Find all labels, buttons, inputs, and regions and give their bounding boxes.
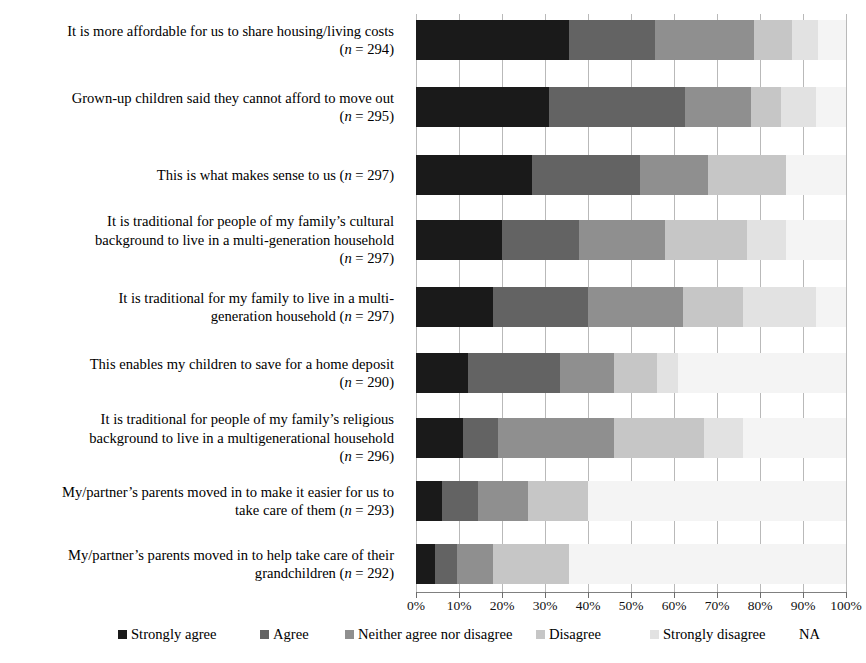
bar-segment-2 <box>463 418 497 458</box>
legend-item[interactable]: Strongly disagree <box>650 626 766 643</box>
bar-segment-2 <box>569 20 655 60</box>
row-label: This enables my children to save for a h… <box>0 355 404 392</box>
bar-segment-4 <box>665 220 747 260</box>
legend-label: Disagree <box>549 626 601 643</box>
x-tick-label: 100% <box>823 598 866 614</box>
row-label: My/partner’s parents moved in to help ta… <box>0 546 404 583</box>
bar-segment-1 <box>416 20 569 60</box>
bar-segment-1 <box>416 87 549 127</box>
bar-segment-1 <box>416 544 435 584</box>
x-tick-label: 30% <box>522 598 568 614</box>
bar-segment-2 <box>493 287 588 327</box>
stacked-bar <box>416 418 846 458</box>
bar-segment-4 <box>493 544 568 584</box>
bar-segment-5 <box>743 287 816 327</box>
stacked-bar <box>416 287 846 327</box>
bar-segment-2 <box>468 353 560 393</box>
bar-segment-5 <box>747 220 786 260</box>
bar-segment-3 <box>588 287 683 327</box>
legend-label: Strongly disagree <box>663 626 766 643</box>
bar-segment-6 <box>816 287 846 327</box>
legend-item[interactable]: Disagree <box>536 626 601 643</box>
bar-segment-3 <box>685 87 752 127</box>
stacked-bar <box>416 20 846 60</box>
stacked-bar <box>416 155 846 195</box>
legend-swatch-icon <box>786 630 795 639</box>
bar-segment-6 <box>588 481 846 521</box>
legend-item[interactable]: NA <box>786 626 820 643</box>
bar-segment-6 <box>786 155 846 195</box>
legend-item[interactable]: Strongly agree <box>118 626 217 643</box>
bar-segment-3 <box>478 481 527 521</box>
row-label: It is traditional for people of my famil… <box>0 212 404 268</box>
bar-segment-4 <box>614 418 704 458</box>
bar-segment-2 <box>435 544 457 584</box>
bar-segment-1 <box>416 418 463 458</box>
bar-segment-2 <box>532 155 640 195</box>
x-tick-label: 80% <box>737 598 783 614</box>
row-label: It is traditional for people of my famil… <box>0 410 404 466</box>
x-tick-label: 10% <box>436 598 482 614</box>
legend-swatch-icon <box>536 630 545 639</box>
bar-segment-6 <box>818 20 846 60</box>
legend-swatch-icon <box>650 630 659 639</box>
stacked-bar <box>416 87 846 127</box>
bar-segment-1 <box>416 353 468 393</box>
stacked-bar <box>416 481 846 521</box>
bar-segment-2 <box>502 220 579 260</box>
bar-segment-4 <box>528 481 588 521</box>
x-tick-label: 40% <box>565 598 611 614</box>
bar-segment-3 <box>498 418 614 458</box>
legend-item[interactable]: Neither agree nor disagree <box>345 626 512 643</box>
bar-segment-3 <box>457 544 494 584</box>
bar-segment-6 <box>678 353 846 393</box>
bar-segment-4 <box>754 20 793 60</box>
legend-swatch-icon <box>260 630 269 639</box>
row-label: It is more affordable for us to share ho… <box>0 22 404 59</box>
stacked-bar <box>416 353 846 393</box>
row-label: This is what makes sense to us (n = 297) <box>0 166 404 185</box>
x-tick-label: 20% <box>479 598 525 614</box>
bar-segment-1 <box>416 481 442 521</box>
x-tick-label: 60% <box>651 598 697 614</box>
bar-segment-4 <box>683 287 743 327</box>
stacked-bar <box>416 220 846 260</box>
bar-segment-2 <box>549 87 684 127</box>
bar-segment-3 <box>560 353 614 393</box>
legend-label: Agree <box>273 626 309 643</box>
x-tick-label: 0% <box>393 598 439 614</box>
bar-segment-2 <box>442 481 479 521</box>
bar-segment-1 <box>416 220 502 260</box>
legend-swatch-icon <box>345 630 354 639</box>
x-tick-label: 70% <box>694 598 740 614</box>
x-tick-label: 50% <box>608 598 654 614</box>
bar-segment-4 <box>751 87 781 127</box>
bar-segment-5 <box>792 20 818 60</box>
row-label: My/partner’s parents moved in to make it… <box>0 483 404 520</box>
row-label: It is traditional for my family to live … <box>0 289 404 326</box>
bar-segment-6 <box>569 544 846 584</box>
bar-segment-3 <box>579 220 665 260</box>
bar-segment-4 <box>708 155 785 195</box>
row-label: Grown-up children said they cannot affor… <box>0 89 404 126</box>
bar-segment-4 <box>614 353 657 393</box>
legend-label: Strongly agree <box>131 626 217 643</box>
bar-segment-1 <box>416 287 493 327</box>
stacked-bar <box>416 544 846 584</box>
bar-segment-3 <box>640 155 709 195</box>
bar-segment-5 <box>781 87 815 127</box>
bar-segment-3 <box>655 20 754 60</box>
legend-label: NA <box>799 626 820 643</box>
legend-swatch-icon <box>118 630 127 639</box>
legend-item[interactable]: Agree <box>260 626 309 643</box>
bar-segment-5 <box>704 418 743 458</box>
bar-segment-1 <box>416 155 532 195</box>
bar-segment-6 <box>786 220 846 260</box>
x-tick-label: 90% <box>780 598 826 614</box>
bar-segment-5 <box>657 353 679 393</box>
legend-label: Neither agree nor disagree <box>358 626 512 643</box>
bar-segment-6 <box>743 418 846 458</box>
bar-segment-6 <box>816 87 846 127</box>
